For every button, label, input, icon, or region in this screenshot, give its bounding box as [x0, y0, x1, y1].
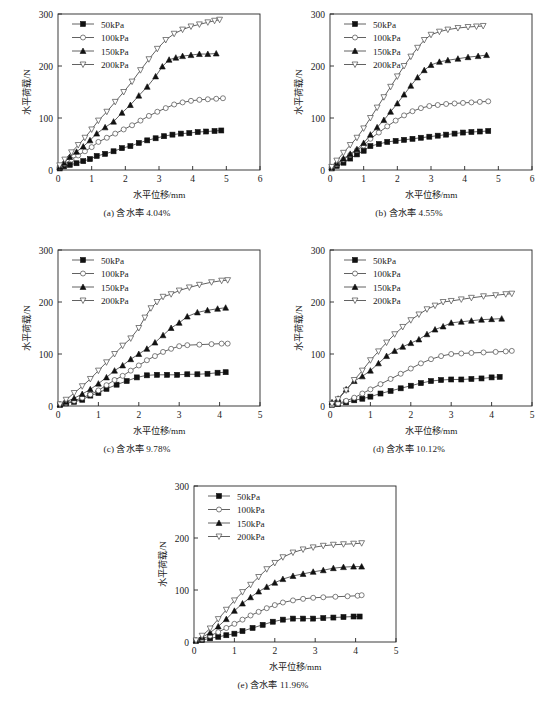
data-point-marker: [421, 67, 427, 73]
legend-entry-200kPa: 200kPa: [208, 532, 265, 542]
y-tick-label: 200: [39, 62, 54, 72]
data-point-marker: [427, 134, 432, 139]
data-point-marker: [212, 129, 217, 134]
data-point-marker: [240, 617, 245, 622]
legend-entry-150kPa: 150kPa: [344, 283, 401, 293]
x-tick-label: 5: [394, 646, 399, 656]
data-point-marker: [388, 388, 393, 393]
series-50kPa: [57, 128, 224, 171]
legend-label: 100kPa: [237, 505, 265, 515]
data-point-marker: [368, 387, 373, 392]
y-tick-label: 0: [320, 166, 325, 176]
data-point-marker: [148, 306, 154, 312]
data-point-marker: [398, 386, 403, 391]
data-point-marker: [503, 349, 508, 354]
data-point-marker: [400, 344, 406, 350]
legend-marker-filled-square: [353, 22, 358, 27]
y-tick-label: 0: [320, 402, 325, 412]
data-point-marker: [429, 379, 434, 384]
data-point-marker: [388, 376, 393, 381]
data-point-marker: [418, 361, 423, 366]
data-point-marker: [408, 366, 413, 371]
legend-marker-filled-square: [217, 494, 222, 499]
data-point-marker: [449, 377, 454, 382]
data-point-marker: [136, 140, 141, 145]
legend-marker-open-circle: [81, 271, 86, 276]
data-point-marker: [301, 616, 306, 621]
legend-entry-150kPa: 150kPa: [72, 47, 129, 57]
legend-entry-200kPa: 200kPa: [344, 60, 401, 70]
data-point-marker: [163, 106, 168, 111]
series-150kPa: [329, 52, 490, 170]
legend-label: 200kPa: [237, 532, 265, 542]
x-tick-label: 0: [328, 410, 333, 420]
y-tick-label: 100: [175, 586, 190, 596]
data-point-marker: [418, 135, 423, 140]
y-axis-title: 水平荷载/N: [21, 305, 32, 351]
chart-caption-d: (d) 含水率 10.12%: [274, 441, 544, 455]
series-line: [196, 543, 362, 640]
data-point-marker: [272, 560, 278, 566]
data-point-marker: [96, 139, 101, 144]
legend-entry-50kPa: 50kPa: [72, 256, 124, 266]
series-50kPa: [329, 129, 491, 171]
data-point-marker: [197, 342, 202, 347]
data-point-marker: [270, 619, 275, 624]
data-point-marker: [128, 356, 134, 362]
data-point-marker: [248, 594, 254, 600]
data-point-marker: [248, 613, 253, 618]
x-tick-label: 3: [157, 174, 162, 184]
data-point-marker: [144, 358, 149, 363]
data-point-marker: [145, 138, 150, 143]
x-tick-label: 4: [217, 410, 222, 420]
data-point-marker: [452, 101, 457, 106]
x-tick-label: 1: [368, 410, 373, 420]
data-point-marker: [381, 95, 387, 101]
data-point-marker: [264, 584, 270, 590]
data-point-marker: [429, 357, 434, 362]
data-point-marker: [187, 131, 192, 136]
data-point-marker: [424, 307, 430, 313]
data-point-marker: [345, 594, 350, 599]
data-point-marker: [384, 353, 390, 359]
chart-svg-b: 01234560100200300水平位移/mm水平荷载/N50kPa100kP…: [274, 0, 544, 205]
data-point-marker: [449, 352, 454, 357]
data-point-marker: [250, 625, 255, 630]
legend-entry-50kPa: 50kPa: [344, 256, 396, 266]
data-point-marker: [392, 348, 398, 354]
x-tick-label: 0: [56, 174, 61, 184]
x-tick-label: 1: [89, 174, 94, 184]
data-point-marker: [469, 350, 474, 355]
data-point-marker: [280, 555, 286, 561]
data-point-marker: [440, 300, 446, 306]
data-point-marker: [161, 349, 166, 354]
data-point-marker: [120, 362, 126, 368]
data-point-marker: [195, 130, 200, 135]
data-point-marker: [280, 617, 285, 622]
y-tick-label: 100: [311, 350, 326, 360]
data-point-marker: [176, 320, 182, 326]
data-point-marker: [188, 24, 194, 30]
data-point-marker: [469, 376, 474, 381]
data-point-marker: [331, 615, 336, 620]
x-tick-label: 6: [530, 174, 535, 184]
chart-caption-b: (b) 含水率 4.55%: [274, 205, 544, 219]
data-point-marker: [87, 386, 93, 392]
legend-entry-150kPa: 150kPa: [208, 519, 265, 529]
x-tick-label: 2: [272, 646, 277, 656]
data-point-marker: [361, 148, 366, 153]
chart-panel-b: 01234560100200300水平位移/mm水平荷载/N50kPa100kP…: [274, 0, 544, 219]
legend-label: 200kPa: [101, 60, 129, 70]
data-point-marker: [94, 153, 99, 158]
data-point-marker: [89, 145, 94, 150]
y-axis-title: 水平荷载/N: [157, 541, 168, 587]
data-point-marker: [155, 109, 160, 114]
data-point-marker: [424, 331, 430, 337]
series-line: [60, 308, 226, 405]
x-tick-label: 2: [123, 174, 128, 184]
data-point-marker: [272, 580, 278, 586]
data-point-marker: [144, 346, 150, 352]
data-point-marker: [359, 593, 364, 598]
legend-entry-100kPa: 100kPa: [208, 505, 265, 515]
data-point-marker: [435, 133, 440, 138]
